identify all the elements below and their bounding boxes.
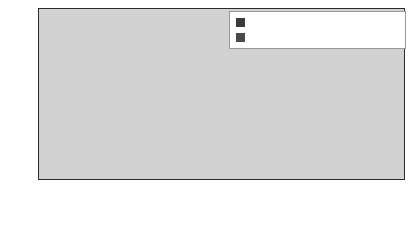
chart-legend bbox=[229, 11, 406, 49]
legend-swatch-icon bbox=[236, 33, 245, 42]
stacked-bar-chart bbox=[0, 0, 413, 236]
legend-item-no-affiliation bbox=[236, 17, 399, 27]
y-axis-ticks bbox=[0, 0, 38, 236]
legend-item-has-affiliation bbox=[236, 32, 399, 42]
legend-swatch-icon bbox=[236, 18, 245, 27]
